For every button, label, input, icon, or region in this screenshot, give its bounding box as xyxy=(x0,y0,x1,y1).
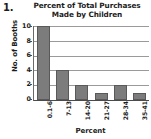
x-axis-ticks: 0.1-6 7-13 14-20 21-27 28-34 35-41 xyxy=(33,101,148,127)
y-tick-mark-2 xyxy=(30,84,32,85)
chart-title: Percent of Total Purchases Made by Child… xyxy=(26,2,148,19)
y-tick-label-0: 0 xyxy=(17,96,31,102)
chart-title-line-1: Percent of Total Purchases xyxy=(33,1,140,10)
y-tick-label-4: 4 xyxy=(17,67,31,73)
y-tick-label-8: 8 xyxy=(17,38,31,44)
x-axis-label: Percent xyxy=(33,127,148,135)
bar-series xyxy=(34,26,149,100)
y-tick-mark-10 xyxy=(30,26,32,27)
bar-0 xyxy=(37,26,50,100)
x-tick-label-5: 35-41 xyxy=(141,101,148,120)
bar-2 xyxy=(75,85,88,100)
y-tick-mark-0 xyxy=(30,99,32,100)
x-tick-wrap-2: 14-20 xyxy=(71,101,90,127)
y-axis-ticks: 10 8 6 4 2 0 xyxy=(15,0,31,139)
bar-chart-figure: 1. Percent of Total Purchases Made by Ch… xyxy=(0,0,151,139)
y-tick-mark-6 xyxy=(30,55,32,56)
plot-area xyxy=(33,26,149,101)
bar-1 xyxy=(56,70,69,100)
chart-title-line-2: Made by Children xyxy=(26,11,148,20)
y-tick-mark-4 xyxy=(30,70,32,71)
x-tick-wrap-3: 21-27 xyxy=(91,101,110,127)
x-tick-wrap-5: 35-41 xyxy=(129,101,148,127)
bar-4 xyxy=(114,85,127,100)
bar-3 xyxy=(95,93,108,100)
y-tick-label-6: 6 xyxy=(17,52,31,58)
y-tick-mark-8 xyxy=(30,41,32,42)
x-tick-wrap-1: 7-13 xyxy=(52,101,71,127)
x-tick-wrap-0: 0.1-6 xyxy=(33,101,52,127)
x-tick-wrap-4: 28-34 xyxy=(110,101,129,127)
y-tick-label-2: 2 xyxy=(17,81,31,87)
y-tick-label-10: 10 xyxy=(17,23,31,29)
bar-5 xyxy=(133,93,146,100)
